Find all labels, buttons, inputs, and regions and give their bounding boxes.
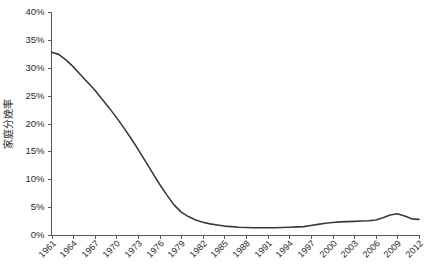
x-tick-label: 1988 <box>231 238 252 259</box>
x-tick-label: 1985 <box>209 238 230 259</box>
x-tick-label: 1970 <box>101 238 122 259</box>
x-tick-label: 1982 <box>188 238 209 259</box>
x-tick-label: 1976 <box>145 238 166 259</box>
y-tick-label: 35% <box>25 34 45 45</box>
data-series-line <box>52 52 420 228</box>
y-axis-tick-labels: 40%35%30%25%20%15%10%5%0% <box>25 6 45 240</box>
x-tick-label: 2012 <box>404 238 425 259</box>
y-tick-label: 15% <box>25 145 45 156</box>
x-tick-label: 1964 <box>58 238 79 259</box>
chart-container: 40%35%30%25%20%15%10%5%0% 家庭分娩率 19611964… <box>0 0 428 272</box>
y-tick-label: 40% <box>25 6 45 17</box>
x-axis-group: 1961196419671970197319761979198219851988… <box>37 235 425 260</box>
x-tick-label: 2009 <box>382 238 403 259</box>
plot-area <box>52 52 420 228</box>
x-tick-label: 1961 <box>37 238 58 259</box>
x-tick-label: 1979 <box>166 238 187 259</box>
x-tick-label: 1973 <box>123 238 144 259</box>
x-tick-label: 2006 <box>361 238 382 259</box>
y-axis-title: 家庭分娩率 <box>2 99 14 149</box>
x-tick-label: 1997 <box>296 238 317 259</box>
y-axis-group: 40%35%30%25%20%15%10%5%0% 家庭分娩率 <box>2 6 52 240</box>
x-tick-label: 1994 <box>274 238 295 259</box>
y-axis-ticks <box>48 13 52 236</box>
x-tick-label: 2003 <box>339 238 360 259</box>
y-tick-label: 5% <box>31 201 45 212</box>
y-tick-label: 0% <box>31 229 45 240</box>
x-tick-label: 2000 <box>318 238 339 259</box>
y-tick-label: 30% <box>25 62 45 73</box>
x-tick-label: 1967 <box>80 238 101 259</box>
y-tick-label: 20% <box>25 118 45 129</box>
y-tick-label: 25% <box>25 90 45 101</box>
x-axis-tick-labels: 1961196419671970197319761979198219851988… <box>37 238 425 259</box>
y-tick-label: 10% <box>25 173 45 184</box>
x-tick-label: 1991 <box>253 238 274 259</box>
line-chart: 40%35%30%25%20%15%10%5%0% 家庭分娩率 19611964… <box>0 0 428 272</box>
